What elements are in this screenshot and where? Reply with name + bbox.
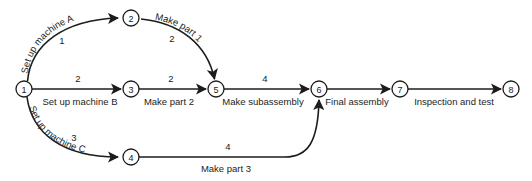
edge-1-to-2: 1 Set up machine A (19, 12, 118, 81)
node-4-label: 4 (128, 153, 133, 163)
edge-6-to-7: Final assembly (325, 89, 390, 107)
edge-1-to-2-path (28, 18, 119, 81)
edge-1-to-4-activity-text: Set up machine C (27, 104, 87, 154)
node-5-label: 5 (213, 85, 218, 95)
edge-1-to-4-activity-label: Set up machine C (27, 104, 87, 154)
edge-1-to-2-activity-label: Set up machine A (19, 12, 76, 74)
node-1[interactable]: 1 (16, 81, 32, 97)
edge-5-to-6-activity-label: Make subassembly (222, 96, 304, 107)
edge-5-to-6-duration: 4 (262, 73, 267, 84)
edge-3-to-5-duration: 2 (168, 73, 173, 84)
edge-3-to-5-activity-label: Make part 2 (144, 96, 194, 107)
edge-4-to-6-activity-label: Make part 3 (201, 163, 251, 174)
edge-2-to-5-activity-text: Make part 1 (154, 11, 205, 44)
node-2[interactable]: 2 (123, 10, 139, 26)
node-6[interactable]: 6 (311, 81, 327, 97)
node-5[interactable]: 5 (208, 81, 224, 97)
node-4[interactable]: 4 (123, 149, 139, 165)
edge-6-to-7-activity-label: Final assembly (325, 96, 389, 107)
edge-4-to-6: 4 Make part 3 (139, 100, 319, 174)
node-2-label: 2 (128, 14, 133, 24)
edge-2-to-5-activity-label: Make part 1 (154, 11, 205, 44)
edge-5-to-6: 4 Make subassembly (222, 73, 309, 107)
edge-3-to-5: 2 Make part 2 (139, 73, 206, 107)
edge-7-to-8-activity-label: Inspection and test (414, 96, 494, 107)
edge-1-to-2-activity-text: Set up machine A (19, 12, 76, 74)
edge-1-to-3-duration: 2 (75, 73, 80, 84)
edge-2-to-5: 2 Make part 1 (141, 11, 215, 79)
node-3[interactable]: 3 (123, 81, 139, 97)
node-8[interactable]: 8 (503, 81, 519, 97)
node-6-label: 6 (316, 85, 321, 95)
node-7[interactable]: 7 (392, 81, 408, 97)
edge-1-to-2-duration: 1 (59, 35, 64, 46)
node-8-label: 8 (508, 85, 513, 95)
node-1-label: 1 (21, 85, 26, 95)
node-7-label: 7 (397, 85, 402, 95)
edge-4-to-6-duration: 4 (225, 141, 230, 152)
edge-7-to-8: Inspection and test (408, 89, 501, 107)
edge-2-to-5-duration: 2 (169, 33, 174, 44)
edge-1-to-3-activity-label: Set up machine B (43, 96, 118, 107)
node-3-label: 3 (128, 85, 133, 95)
network-diagram: 1 Set up machine A 2 Make part 1 2 Set u… (0, 0, 532, 181)
edge-1-to-3: 2 Set up machine B (32, 73, 121, 107)
network-diagram-canvas: 1 Set up machine A 2 Make part 1 2 Set u… (0, 0, 532, 181)
